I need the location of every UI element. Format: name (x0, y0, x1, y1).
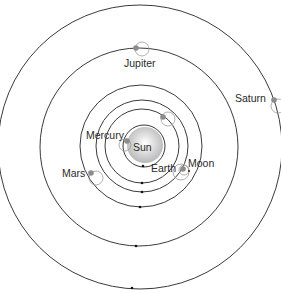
jupiter-planet (133, 45, 139, 51)
earth-dot (142, 165, 145, 168)
label-earth: Earth (151, 162, 176, 174)
label-mars: Mars (62, 167, 85, 179)
label-saturn: Saturn (235, 92, 266, 104)
moon-body (180, 166, 186, 172)
mercury-deferent-dot (141, 182, 144, 185)
label-mercury: Mercury (86, 129, 125, 141)
venus-deferent-dot (141, 191, 144, 194)
label-moon: Moon (188, 157, 214, 169)
mars-deferent-dot (139, 206, 142, 209)
saturn-deferent-dot (131, 287, 134, 290)
moon-dot (188, 170, 190, 172)
venus-planet (160, 114, 166, 120)
label-sun: Sun (133, 141, 152, 153)
mars-planet (88, 170, 94, 176)
geocentric-diagram: Sun Earth Moon Mercury Mars Jupiter Satu… (0, 0, 281, 293)
label-jupiter: Jupiter (124, 57, 156, 69)
mercury-planet (124, 138, 130, 144)
saturn-planet (271, 97, 277, 103)
jupiter-deferent-dot (135, 245, 138, 248)
